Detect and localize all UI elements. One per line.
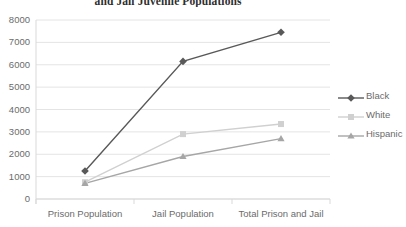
legend-swatch-black <box>338 90 364 102</box>
y-tick-label: 5000 <box>0 81 30 92</box>
legend-swatch-hispanic <box>338 128 364 140</box>
chart-legend: BlackWhiteHispanic <box>338 86 402 143</box>
x-tick-label-0: Prison Population <box>36 208 134 219</box>
legend-swatch-white <box>338 109 364 121</box>
legend-item-hispanic[interactable]: Hispanic <box>338 124 402 143</box>
legend-label-white: White <box>366 109 390 120</box>
data-point-black-2 <box>277 29 285 37</box>
y-tick-label: 2000 <box>0 148 30 159</box>
y-tick-label: 7000 <box>0 36 30 47</box>
chart-container: and Jail Juvenile Populations2 010002000… <box>0 0 406 227</box>
legend-label-hispanic: Hispanic <box>366 128 402 139</box>
data-point-white-2 <box>278 121 284 127</box>
series-line-black <box>85 32 281 171</box>
x-tick-label-1: Jail Population <box>134 208 232 219</box>
x-tick-label-2: Total Prison and Jail <box>232 208 330 219</box>
data-point-hispanic-2 <box>277 135 284 141</box>
y-tick-label: 1000 <box>0 171 30 182</box>
legend-label-black: Black <box>366 90 389 101</box>
y-tick-label: 3000 <box>0 126 30 137</box>
gridlines <box>36 20 330 199</box>
series-lines <box>85 32 281 183</box>
y-tick-label: 0 <box>0 193 30 204</box>
legend-item-black[interactable]: Black <box>338 86 402 105</box>
series-markers <box>81 29 285 186</box>
x-tick-marks <box>36 199 330 204</box>
y-tick-label: 6000 <box>0 59 30 70</box>
legend-item-white[interactable]: White <box>338 105 402 124</box>
y-tick-label: 8000 <box>0 14 30 25</box>
data-point-white-1 <box>180 131 186 137</box>
y-tick-label: 4000 <box>0 104 30 115</box>
